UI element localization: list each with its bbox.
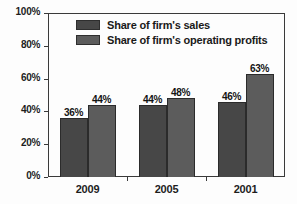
bar: 44%: [88, 105, 116, 177]
legend-item[interactable]: Share of firm's sales: [76, 18, 267, 31]
y-axis-tick-label: 0%: [26, 170, 40, 181]
bar: 36%: [60, 118, 88, 177]
x-axis-category-label: 2009: [76, 183, 100, 195]
bar-value-label: 36%: [64, 107, 83, 118]
x-axis-tick-mark: [206, 177, 207, 181]
y-axis-tick-label: 60%: [21, 72, 40, 83]
bar-value-label: 44%: [92, 94, 111, 105]
bar: 46%: [218, 102, 246, 177]
legend-swatch-icon: [76, 35, 100, 45]
bar: 44%: [139, 105, 167, 177]
y-axis-tick-label: 20%: [21, 137, 40, 148]
x-axis-category-label: 2001: [234, 183, 258, 195]
y-axis-tick-label: 100%: [16, 6, 40, 17]
bar: 63%: [246, 74, 274, 177]
bar-chart-figure: 100%80%60%40%20%0% 36%44%44%48%46%63% 20…: [0, 0, 297, 204]
y-axis-tick-label: 80%: [21, 39, 40, 50]
bar-value-label: 48%: [171, 87, 190, 98]
legend-item[interactable]: Share of firm's operating profits: [76, 33, 267, 46]
legend-swatch-icon: [76, 20, 100, 30]
x-axis-tick-mark: [127, 177, 128, 181]
legend-label: Share of firm's operating profits: [107, 34, 267, 46]
bar-value-label: 44%: [143, 94, 162, 105]
y-axis-tick-label: 40%: [21, 104, 40, 115]
chart-legend: Share of firm's salesShare of firm's ope…: [76, 18, 267, 48]
legend-label: Share of firm's sales: [107, 19, 210, 31]
y-axis-tick-mark: [44, 177, 48, 178]
bar-value-label: 63%: [250, 63, 269, 74]
x-axis-category-label: 2005: [155, 183, 179, 195]
bar: 48%: [167, 98, 195, 177]
bar-value-label: 46%: [222, 91, 241, 102]
